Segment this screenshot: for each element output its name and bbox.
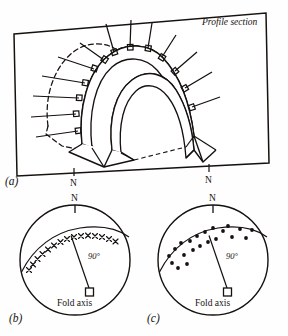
fold-axis-label-b: Fold axis [57,299,92,309]
dot-marker [167,254,171,258]
panel-b-key: (b) [9,313,22,325]
fold-axis-marker-b [86,288,94,296]
dot-marker [185,262,189,266]
angle-label-c: 90° [226,252,238,261]
dot-marker [191,248,195,252]
dot-marker [226,224,230,228]
figure-root [0,0,288,336]
north-label-b: N [71,194,78,204]
angle-label-b: 90° [88,252,100,261]
north-label-a-left: N [70,179,77,189]
dot-marker [179,241,183,245]
dot-marker [211,226,215,230]
dot-marker [244,236,248,240]
dot-marker [203,230,207,234]
dot-marker [221,229,225,233]
dot-marker [250,228,254,232]
fold-axis-label-c: Fold axis [195,299,230,309]
dot-marker [238,227,242,231]
fold-axis-marker-c [224,288,232,296]
north-label-c: N [209,194,216,204]
dot-marker [182,253,186,257]
profile-section-label: Profile section [202,18,257,28]
dot-marker [206,240,210,244]
dot-marker [214,237,218,241]
north-label-a-right: N [205,176,212,186]
dot-marker [195,234,199,238]
panel-c-key: (c) [147,313,160,325]
dot-marker [198,244,202,248]
dot-marker [173,247,177,251]
panel-a-block-diagram [14,13,269,176]
dot-marker [170,261,174,265]
panel-a-key: (a) [5,176,18,188]
dot-marker [188,239,192,243]
dot-marker [230,235,234,239]
dot-marker [176,266,180,270]
